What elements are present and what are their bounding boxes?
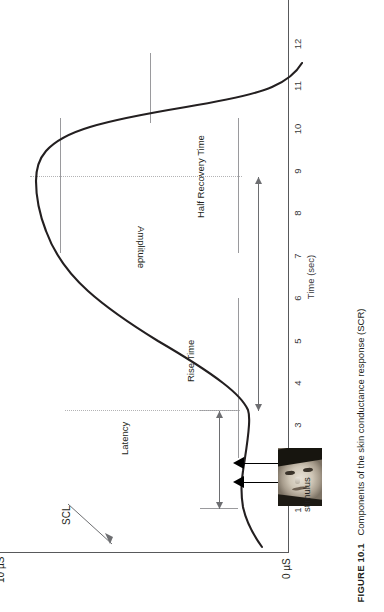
figure-caption-label: FIGURE 10.1 — [355, 538, 366, 602]
x-axis-title: Time (sec) — [306, 255, 316, 300]
scl-leader-line — [66, 500, 126, 552]
figure-caption: FIGURE 10.1 Components of the skin condu… — [355, 308, 366, 602]
y-axis-min-label: 0 µS — [282, 558, 292, 579]
stimulus-arrow-line-1 — [244, 463, 278, 464]
annotation-latency: Latency — [120, 422, 130, 455]
annotation-stimulus: stimulus — [302, 477, 312, 512]
annotation-half-recovery-time: Half Recovery Time — [196, 135, 206, 218]
plot-area: 1 2 3 4 5 6 7 8 9 10 11 12 Time (sec) 10… — [0, 0, 307, 553]
y-axis-max-label: 10 µS — [0, 557, 6, 583]
figure-caption-text: Components of the skin conductance respo… — [355, 308, 366, 535]
figure-page: 1 2 3 4 5 6 7 8 9 10 11 12 Time (sec) 10… — [0, 0, 384, 612]
stimulus-image — [278, 448, 322, 506]
scr-curve — [0, 0, 307, 553]
annotation-rise-time: Rise Time — [186, 340, 196, 382]
stimulus-arrow-line-2 — [244, 482, 278, 483]
stimulus-arrow-head-2 — [233, 476, 244, 488]
chart-rotor: 1 2 3 4 5 6 7 8 9 10 11 12 Time (sec) 10… — [0, 0, 307, 553]
annotation-amplitude: Amplitude — [137, 226, 147, 268]
nose — [295, 477, 300, 484]
stimulus-arrow-head-1 — [233, 457, 244, 469]
